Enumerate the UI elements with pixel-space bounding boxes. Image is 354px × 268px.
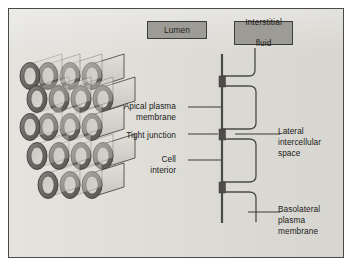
tight-junction-block	[219, 76, 226, 87]
header-interstitial-line1: Interstitial	[245, 17, 282, 28]
figure-root: Lumen Interstitial fluid Apical plasma m…	[0, 0, 354, 268]
label-apical-line2: membrane	[136, 112, 176, 122]
lateral-membrane	[223, 48, 255, 76]
label-basolateral-line3: membrane	[278, 226, 318, 236]
tight-junction-block	[219, 182, 226, 193]
label-lateral-intercellular-space: Lateral intercellular space	[278, 126, 350, 159]
lateral-membrane	[223, 192, 256, 222]
membrane-cross-section	[219, 48, 256, 223]
label-apical-plasma-membrane: Apical plasma membrane	[96, 101, 176, 123]
lateral-membrane	[223, 139, 256, 182]
header-box-lumen: Lumen	[147, 21, 207, 39]
label-cell-line2: interior	[150, 165, 176, 175]
label-cell-line1: Cell	[162, 154, 177, 164]
label-tight-junction-text: Tight junction	[126, 130, 176, 140]
header-lumen-label: Lumen	[164, 25, 190, 36]
label-lateral-line1: Lateral	[278, 126, 304, 136]
lateral-membrane	[223, 86, 256, 129]
label-lateral-line2: intercellular	[278, 137, 321, 147]
label-tight-junction: Tight junction	[96, 130, 176, 141]
header-interstitial-line2: fluid	[245, 38, 282, 49]
epithelial-tube-array	[20, 54, 135, 199]
label-basolateral-plasma-membrane: Basolateral plasma membrane	[278, 204, 350, 237]
tight-junction-block	[219, 129, 226, 140]
header-box-interstitial-fluid: Interstitial fluid	[234, 21, 293, 45]
label-basolateral-line2: plasma	[278, 215, 305, 225]
label-lateral-line3: space	[278, 148, 300, 158]
label-basolateral-line1: Basolateral	[278, 204, 320, 214]
label-apical-line1: Apical plasma	[124, 101, 176, 111]
label-cell-interior: Cell interior	[96, 154, 176, 176]
